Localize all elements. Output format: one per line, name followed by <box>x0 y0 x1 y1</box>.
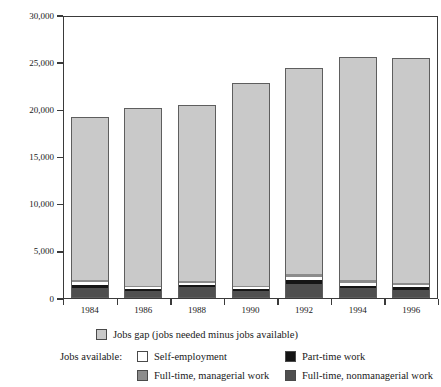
bar-1988 <box>178 105 216 298</box>
bar-segment-gap <box>124 108 162 286</box>
legend-label-managerial: Full-time, managerial work <box>154 368 269 383</box>
plot-area <box>63 16 438 299</box>
bar-1984 <box>71 117 109 298</box>
bar-segment-nonmgr <box>392 290 430 298</box>
part-time-swatch-icon <box>285 351 296 362</box>
x-tick-mark <box>224 299 225 305</box>
x-tick-label: 1990 <box>242 305 260 315</box>
self-employment-swatch-icon <box>137 351 148 362</box>
x-tick-label: 1986 <box>134 305 152 315</box>
bar-segment-gap <box>285 68 323 274</box>
y-tick-label: 0 <box>50 293 55 305</box>
managerial-swatch-icon <box>137 370 148 381</box>
nonmanagerial-swatch-icon <box>285 370 296 381</box>
bar-1986 <box>124 108 162 298</box>
bar-segment-nonmgr <box>178 287 216 298</box>
y-tick-label: 20,000 <box>29 104 54 116</box>
bar-1990 <box>232 83 270 298</box>
bar-segment-nonmgr <box>232 291 270 298</box>
bar-segment-gap <box>178 105 216 281</box>
legend-group-label: Jobs available: <box>60 349 122 364</box>
x-tick-mark <box>438 299 439 305</box>
y-tick-label: 10,000 <box>29 198 54 210</box>
legend-label-self-employment: Self-employment <box>154 349 227 364</box>
x-tick-mark <box>331 299 332 305</box>
x-tick-mark <box>117 299 118 305</box>
x-tick-mark <box>384 299 385 305</box>
y-tick-label: 25,000 <box>29 57 54 69</box>
y-tick-label: 30,000 <box>29 10 54 22</box>
bar-1992 <box>285 68 323 298</box>
bar-segment-nonmgr <box>339 288 377 298</box>
chart-figure: Thousands 05,00010,00015,00020,00025,000… <box>0 0 441 387</box>
bar-segment-nonmgr <box>124 291 162 298</box>
legend-label-part-time: Part-time work <box>302 349 365 364</box>
x-tick-mark <box>63 299 64 305</box>
jobs-gap-swatch-icon <box>96 329 107 340</box>
x-tick-label: 1992 <box>295 305 313 315</box>
x-tick-label: 1988 <box>188 305 206 315</box>
bar-segment-gap <box>339 57 377 281</box>
x-tick-mark <box>277 299 278 305</box>
bar-segment-gap <box>71 117 109 280</box>
bar-1994 <box>339 57 377 298</box>
legend-label-jobs-gap: Jobs gap (jobs needed minus jobs availab… <box>113 327 298 342</box>
legend-label-nonmanagerial: Full-time, nonmanagerial work <box>302 368 433 383</box>
bar-segment-gap <box>392 58 430 283</box>
bar-segment-nonmgr <box>71 288 109 298</box>
y-tick-label: 5,000 <box>34 245 54 257</box>
bar-segment-gap <box>232 83 270 286</box>
x-tick-label: 1984 <box>81 305 99 315</box>
x-tick-label: 1994 <box>349 305 367 315</box>
bar-segment-nonmgr <box>285 284 323 298</box>
chart-legend: Jobs gap (jobs needed minus jobs availab… <box>0 327 441 387</box>
x-tick-label: 1996 <box>402 305 420 315</box>
x-tick-mark <box>170 299 171 305</box>
y-tick-label: 15,000 <box>29 151 54 163</box>
bar-1996 <box>392 58 430 299</box>
